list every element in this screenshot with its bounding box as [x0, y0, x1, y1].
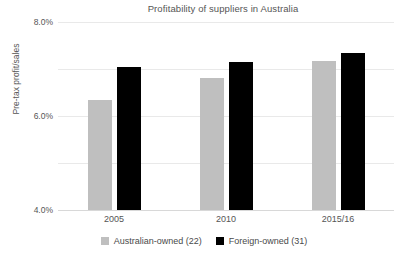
bar-2015-16-series-1[interactable] — [341, 53, 365, 210]
gridline: 0.0% — [58, 210, 394, 211]
y-tick-label: 4.0% — [34, 205, 53, 215]
bar-group — [88, 22, 141, 210]
plot-area: 0.0%2.0%4.0%6.0%8.0%200520102015/16 — [58, 22, 394, 210]
x-tick-label: 2005 — [69, 214, 159, 224]
chart-title: Profitability of suppliers in Australia — [0, 3, 398, 14]
legend-entry-1[interactable]: Foreign-owned (31) — [216, 236, 308, 246]
bar-2010-series-0[interactable] — [200, 78, 224, 210]
bar-2015-16-series-0[interactable] — [312, 61, 336, 210]
legend-entry-0[interactable]: Australian-owned (22) — [101, 236, 202, 246]
legend-swatch-icon — [216, 237, 224, 245]
legend-swatch-icon — [101, 237, 109, 245]
legend-label: Foreign-owned (31) — [229, 236, 308, 246]
bar-group — [200, 22, 253, 210]
chart-figure: Profitability of suppliers in Australia … — [0, 0, 398, 261]
x-tick-label: 2010 — [181, 214, 271, 224]
chart-legend: Australian-owned (22)Foreign-owned (31) — [0, 236, 398, 246]
legend-label: Australian-owned (22) — [114, 236, 202, 246]
y-tick-label: 8.0% — [34, 17, 53, 27]
bar-2005-series-0[interactable] — [88, 100, 112, 210]
bar-2010-series-1[interactable] — [229, 62, 253, 210]
y-axis-title: Pre-tax profit/sales — [11, 9, 21, 149]
bar-2005-series-1[interactable] — [117, 67, 141, 210]
x-tick-label: 2015/16 — [293, 214, 383, 224]
y-tick-label: 6.0% — [34, 111, 53, 121]
bar-group — [312, 22, 365, 210]
